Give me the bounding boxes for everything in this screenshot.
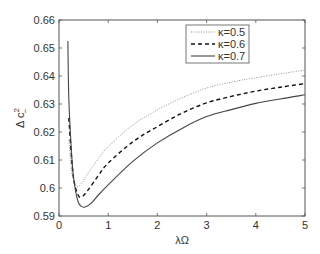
y-tick-label: 0.63 (34, 98, 55, 110)
chart-container: 012345 0.590.60.610.620.630.640.650.66 λ… (0, 0, 320, 254)
y-tick-label: 0.65 (34, 42, 55, 54)
y-tick-label: 0.61 (34, 154, 55, 166)
x-tick-label: 1 (105, 219, 111, 231)
y-tick-label: 0.59 (34, 210, 55, 222)
y-tick-label: 0.66 (34, 14, 55, 26)
x-tick-label: 0 (56, 219, 62, 231)
y-axis-label: Δ c2− (12, 108, 30, 128)
y-tick-label: 0.62 (34, 126, 55, 138)
legend-label: κ=0.6 (218, 38, 245, 50)
x-axis-label: λΩ (175, 234, 189, 246)
y-axis-label-base: Δ c (14, 112, 26, 128)
x-tick-label: 3 (204, 219, 210, 231)
y-tick-label: 0.6 (40, 182, 55, 194)
legend-label: κ=0.7 (218, 50, 245, 62)
legend: κ=0.5κ=0.6κ=0.7 (186, 25, 249, 63)
x-tick-label: 5 (302, 219, 308, 231)
y-tick-label: 0.64 (34, 70, 55, 82)
x-tick-label: 4 (253, 219, 259, 231)
axes-frame (59, 20, 305, 216)
line-chart: 012345 0.590.60.610.620.630.640.650.66 λ… (0, 0, 320, 254)
svg-text:Δ c2−: Δ c2− (12, 108, 30, 128)
legend-label: κ=0.5 (218, 26, 245, 38)
y-axis-label-sub: − (21, 108, 30, 113)
y-axis-label-sup: 2 (12, 108, 21, 113)
x-tick-label: 2 (154, 219, 160, 231)
plot-area: 012345 0.590.60.610.620.630.640.650.66 (34, 14, 308, 231)
